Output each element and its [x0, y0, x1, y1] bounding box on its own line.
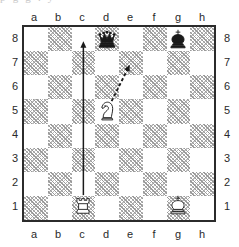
square-b3[interactable]	[48, 148, 72, 172]
square-c4[interactable]	[72, 124, 96, 148]
square-c7[interactable]	[72, 51, 96, 75]
square-f4[interactable]	[143, 124, 167, 148]
file-label-top-a: a	[22, 11, 46, 23]
square-d1[interactable]	[95, 196, 119, 220]
square-e4[interactable]	[119, 124, 143, 148]
square-g3[interactable]	[167, 148, 191, 172]
square-h6[interactable]	[190, 75, 214, 99]
square-f2[interactable]	[143, 172, 167, 196]
rank-label-right-8: 8	[221, 32, 233, 44]
square-h2[interactable]	[190, 172, 214, 196]
file-label-top-d: d	[94, 11, 118, 23]
square-g1[interactable]	[167, 196, 191, 220]
square-b7[interactable]	[48, 51, 72, 75]
square-d7[interactable]	[95, 51, 119, 75]
square-e5[interactable]	[119, 99, 143, 123]
square-c1[interactable]	[72, 196, 96, 220]
rank-label-left-4: 4	[9, 128, 21, 140]
square-h8[interactable]	[190, 27, 214, 51]
square-c6[interactable]	[72, 75, 96, 99]
square-f7[interactable]	[143, 51, 167, 75]
square-f6[interactable]	[143, 75, 167, 99]
file-label-bottom-f: f	[142, 228, 166, 240]
square-d6[interactable]	[95, 75, 119, 99]
square-b4[interactable]	[48, 124, 72, 148]
square-h3[interactable]	[190, 148, 214, 172]
rank-label-left-2: 2	[9, 176, 21, 188]
square-h5[interactable]	[190, 99, 214, 123]
square-e7[interactable]	[119, 51, 143, 75]
square-e2[interactable]	[119, 172, 143, 196]
board-squares	[24, 27, 214, 220]
square-a5[interactable]	[24, 99, 48, 123]
square-a4[interactable]	[24, 124, 48, 148]
file-label-bottom-g: g	[166, 228, 190, 240]
square-h7[interactable]	[190, 51, 214, 75]
square-b8[interactable]	[48, 27, 72, 51]
rank-label-left-6: 6	[9, 80, 21, 92]
square-f1[interactable]	[143, 196, 167, 220]
square-h4[interactable]	[190, 124, 214, 148]
rank-label-left-8: 8	[9, 32, 21, 44]
square-c8[interactable]	[72, 27, 96, 51]
file-label-top-b: b	[46, 11, 70, 23]
board-grid[interactable]	[22, 25, 216, 222]
square-e6[interactable]	[119, 75, 143, 99]
square-a7[interactable]	[24, 51, 48, 75]
square-f5[interactable]	[143, 99, 167, 123]
rank-label-left-3: 3	[9, 152, 21, 164]
rank-label-right-1: 1	[221, 200, 233, 212]
file-label-top-c: c	[70, 11, 94, 23]
square-c2[interactable]	[72, 172, 96, 196]
square-d4[interactable]	[95, 124, 119, 148]
square-f8[interactable]	[143, 27, 167, 51]
square-g8[interactable]	[167, 27, 191, 51]
screenshot-root: p g g . y a b c d e f g h a b c d e f g …	[0, 0, 239, 247]
square-d5[interactable]	[95, 99, 119, 123]
rank-label-right-3: 3	[221, 152, 233, 164]
square-g7[interactable]	[167, 51, 191, 75]
square-b1[interactable]	[48, 196, 72, 220]
square-e1[interactable]	[119, 196, 143, 220]
square-g5[interactable]	[167, 99, 191, 123]
square-c3[interactable]	[72, 148, 96, 172]
square-a3[interactable]	[24, 148, 48, 172]
rank-label-left-1: 1	[9, 200, 21, 212]
file-label-bottom-b: b	[46, 228, 70, 240]
square-d8[interactable]	[95, 27, 119, 51]
rank-label-right-2: 2	[221, 176, 233, 188]
rank-label-right-7: 7	[221, 56, 233, 68]
file-label-top-e: e	[118, 11, 142, 23]
file-label-bottom-c: c	[70, 228, 94, 240]
square-e8[interactable]	[119, 27, 143, 51]
rank-label-left-5: 5	[9, 104, 21, 116]
file-label-bottom-e: e	[118, 228, 142, 240]
rank-label-right-4: 4	[221, 128, 233, 140]
square-h1[interactable]	[190, 196, 214, 220]
square-g6[interactable]	[167, 75, 191, 99]
square-d2[interactable]	[95, 172, 119, 196]
square-g2[interactable]	[167, 172, 191, 196]
square-g4[interactable]	[167, 124, 191, 148]
file-label-bottom-h: h	[190, 228, 214, 240]
square-a6[interactable]	[24, 75, 48, 99]
rank-label-right-5: 5	[221, 104, 233, 116]
file-label-bottom-a: a	[22, 228, 46, 240]
square-a8[interactable]	[24, 27, 48, 51]
square-f3[interactable]	[143, 148, 167, 172]
file-label-top-g: g	[166, 11, 190, 23]
square-c5[interactable]	[72, 99, 96, 123]
square-d3[interactable]	[95, 148, 119, 172]
square-e3[interactable]	[119, 148, 143, 172]
file-label-top-h: h	[190, 11, 214, 23]
square-b6[interactable]	[48, 75, 72, 99]
file-label-bottom-d: d	[94, 228, 118, 240]
chess-diagram: a b c d e f g h a b c d e f g h 8 7 6 5 …	[0, 0, 239, 247]
file-label-top-f: f	[142, 11, 166, 23]
rank-label-left-7: 7	[9, 56, 21, 68]
square-a2[interactable]	[24, 172, 48, 196]
square-a1[interactable]	[24, 196, 48, 220]
rank-label-right-6: 6	[221, 80, 233, 92]
square-b5[interactable]	[48, 99, 72, 123]
square-b2[interactable]	[48, 172, 72, 196]
